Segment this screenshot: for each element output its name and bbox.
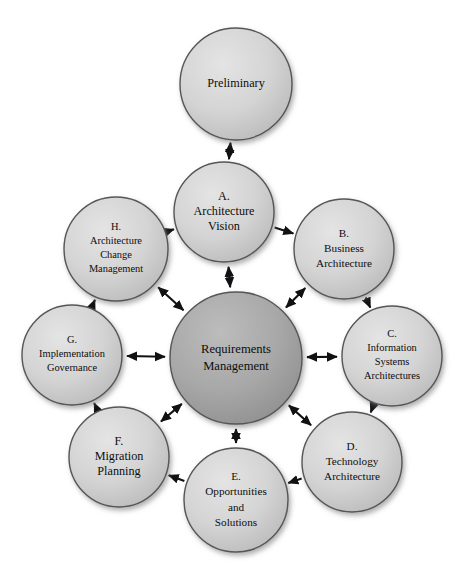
ring-g-h (92, 300, 95, 306)
node-circle-phase-e (184, 448, 288, 552)
spoke-a (229, 267, 231, 287)
node-phase-d[interactable]: D.TechnologyArchitecture (302, 412, 402, 512)
spoke-g (127, 356, 165, 357)
node-requirements-management[interactable]: RequirementsManagement (170, 292, 302, 424)
node-circle-requirements-management (170, 292, 302, 424)
node-circle-phase-a (174, 162, 274, 262)
adm-diagram-canvas: PreliminaryA.ArchitectureVisionB.Busines… (0, 0, 461, 587)
ring-f-g (94, 403, 97, 409)
spoke-b (286, 288, 305, 307)
node-circle-preliminary (180, 28, 292, 140)
spoke-d (289, 405, 311, 425)
ring-b-c (366, 297, 371, 307)
node-circle-phase-c (342, 306, 442, 406)
ring-h-a (168, 229, 174, 231)
node-circle-phase-b (294, 199, 394, 299)
node-layer: PreliminaryA.ArchitectureVisionB.Busines… (22, 28, 442, 552)
node-phase-f[interactable]: F.MigrationPlanning (69, 407, 169, 507)
spoke-h (158, 287, 183, 310)
adm-cycle-diagram: PreliminaryA.ArchitectureVisionB.Busines… (0, 0, 461, 587)
node-phase-a[interactable]: A.ArchitectureVision (174, 162, 274, 262)
ring-c-d (371, 406, 374, 413)
spoke-f (161, 404, 182, 422)
ring-d-e (288, 479, 301, 483)
node-phase-c[interactable]: C.InformationSystemsArchitectures (342, 306, 442, 406)
node-phase-g[interactable]: G.ImplementationGovernance (22, 305, 122, 405)
ring-e-f (169, 475, 185, 481)
node-preliminary[interactable]: Preliminary (180, 28, 292, 140)
node-circle-phase-g (22, 305, 122, 405)
node-phase-b[interactable]: B.BusinessArchitecture (294, 199, 394, 299)
node-circle-phase-d (302, 412, 402, 512)
node-phase-h[interactable]: H.ArchitectureChangeManagement (64, 197, 168, 301)
node-circle-phase-f (69, 407, 169, 507)
ring-prelim-a (229, 143, 231, 159)
ring-a-b (275, 228, 294, 234)
node-circle-phase-h (64, 197, 168, 301)
node-phase-e[interactable]: E.OpportunitiesandSolutions (184, 448, 288, 552)
